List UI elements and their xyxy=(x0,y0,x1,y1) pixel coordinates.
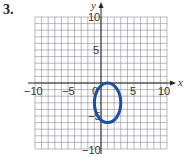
x-tick-10: 10 xyxy=(158,85,170,97)
x-tick-neg5: −5 xyxy=(62,85,75,97)
y-tick-5: 5 xyxy=(93,44,99,56)
x-tick-neg10: −10 xyxy=(24,85,43,97)
y-tick-neg10: −10 xyxy=(82,144,101,156)
y-axis-arrow-icon xyxy=(99,2,104,8)
x-axis-label: x xyxy=(177,76,183,88)
y-axis-label: y xyxy=(90,0,96,11)
y-tick-10: 10 xyxy=(88,11,100,23)
coordinate-plane: x y −10 −5 0 5 10 10 5 −5 −10 xyxy=(0,0,184,157)
x-tick-5: 5 xyxy=(130,85,136,97)
x-axis-arrow-icon xyxy=(170,81,176,86)
